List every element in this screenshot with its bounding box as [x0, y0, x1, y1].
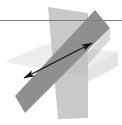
figure-canvas — [0, 0, 122, 125]
geometry-figure — [0, 0, 122, 125]
